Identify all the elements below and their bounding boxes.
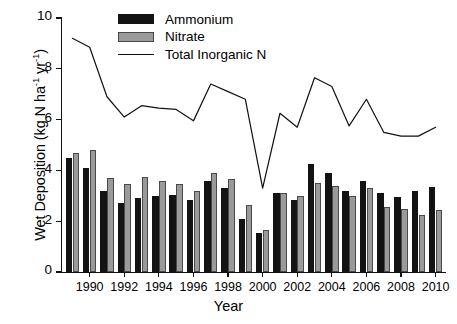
x-tick-label-1998: 1998 (214, 280, 242, 295)
chart-legend: Ammonium Nitrate Total Inorganic N (118, 11, 266, 64)
bar-nitrate-1996 (194, 191, 201, 272)
bar-ammonium-1990 (83, 168, 90, 272)
y-tick-label-6: 6 (44, 110, 52, 125)
bar-nitrate-2005 (349, 196, 356, 272)
bar-nitrate-2008 (401, 209, 408, 273)
bar-nitrate-1991 (107, 178, 114, 272)
legend-label-ammonium: Ammonium (165, 12, 233, 27)
bar-nitrate-1999 (246, 205, 253, 272)
wet-deposition-chart: Wet Deposition (kg N ha-1 yr-1) 0246810 … (0, 0, 457, 324)
bar-ammonium-1992 (118, 203, 125, 272)
bar-ammonium-1995 (169, 195, 176, 272)
x-tick-2010 (435, 272, 436, 277)
legend-item-nitrate: Nitrate (118, 29, 266, 45)
legend-swatch-ammonium (118, 14, 154, 24)
bar-nitrate-2006 (367, 188, 374, 272)
bar-ammonium-2003 (308, 164, 315, 272)
bar-ammonium-1989 (66, 158, 73, 272)
x-tick-label-2006: 2006 (353, 280, 381, 295)
legend-item-total-inorganic-n: Total Inorganic N (118, 46, 266, 62)
y-tick-label-4: 4 (44, 161, 52, 176)
y-tick-2: 2 (56, 221, 62, 222)
bar-ammonium-2004 (325, 173, 332, 272)
bar-nitrate-2000 (263, 230, 270, 272)
bar-ammonium-1996 (187, 200, 194, 272)
y-tick-label-0: 0 (44, 262, 52, 277)
x-tick-1994 (158, 272, 159, 277)
bar-ammonium-2005 (342, 191, 349, 272)
bar-nitrate-2007 (384, 207, 391, 272)
y-tick-10: 10 (56, 17, 62, 18)
y-tick-0: 0 (56, 271, 62, 272)
x-tick-1992 (124, 272, 125, 277)
bar-ammonium-2000 (256, 233, 263, 272)
y-axis-title-sup2: -1 (30, 54, 41, 62)
legend-swatch-total-inorganic-n (118, 49, 154, 59)
x-tick-2000 (262, 272, 263, 277)
x-tick-1996 (193, 272, 194, 277)
bar-ammonium-2007 (377, 193, 384, 272)
bar-ammonium-1994 (152, 196, 159, 272)
bar-nitrate-2003 (315, 183, 322, 272)
bar-nitrate-1990 (90, 150, 97, 272)
x-tick-2002 (297, 272, 298, 277)
x-axis-line (61, 272, 446, 273)
y-axis-title: Wet Deposition (kg N ha-1 yr-1) (30, 10, 48, 280)
bar-nitrate-1993 (142, 177, 149, 272)
x-tick-label-1994: 1994 (145, 280, 173, 295)
x-tick-label-2008: 2008 (387, 280, 415, 295)
y-axis-line (61, 18, 62, 272)
x-tick-1998 (227, 272, 228, 277)
bar-ammonium-2009 (412, 191, 419, 272)
bar-nitrate-2010 (436, 210, 443, 272)
bar-nitrate-2002 (297, 196, 304, 272)
y-tick-label-8: 8 (44, 59, 52, 74)
x-tick-label-2010: 2010 (422, 280, 450, 295)
y-axis-title-sup1: -1 (30, 78, 41, 86)
y-tick-label-2: 2 (44, 212, 52, 227)
y-axis-title-suffix: ) (32, 49, 48, 54)
bar-ammonium-2001 (273, 193, 280, 272)
legend-label-total-inorganic-n: Total Inorganic N (165, 47, 266, 62)
y-tick-8: 8 (56, 68, 62, 69)
bar-nitrate-1998 (228, 179, 235, 272)
bar-ammonium-2010 (429, 187, 436, 272)
x-tick-2004 (331, 272, 332, 277)
bar-nitrate-1992 (124, 184, 131, 272)
bar-nitrate-1994 (159, 181, 166, 272)
x-tick-label-2004: 2004 (318, 280, 346, 295)
x-tick-label-2000: 2000 (249, 280, 277, 295)
bar-ammonium-2006 (360, 181, 367, 272)
y-tick-6: 6 (56, 119, 62, 120)
x-tick-2006 (366, 272, 367, 277)
bar-nitrate-2001 (280, 193, 287, 272)
bar-ammonium-1999 (239, 219, 246, 272)
x-tick-label-1996: 1996 (180, 280, 208, 295)
x-tick-label-1990: 1990 (76, 280, 104, 295)
bar-nitrate-1997 (211, 173, 218, 272)
bar-ammonium-1993 (135, 198, 142, 272)
bar-ammonium-2008 (394, 197, 401, 272)
legend-swatch-nitrate (118, 32, 154, 42)
bar-ammonium-1998 (221, 188, 228, 272)
bar-ammonium-2002 (291, 200, 298, 272)
bar-nitrate-1995 (176, 184, 183, 272)
y-tick-label-10: 10 (37, 8, 52, 23)
legend-item-ammonium: Ammonium (118, 11, 266, 27)
bar-nitrate-2004 (332, 186, 339, 272)
bar-ammonium-1991 (100, 191, 107, 272)
legend-label-nitrate: Nitrate (165, 29, 205, 44)
x-tick-label-1992: 1992 (110, 280, 138, 295)
bar-nitrate-1989 (73, 153, 80, 272)
bar-nitrate-2009 (419, 215, 426, 272)
bar-ammonium-1997 (204, 181, 211, 272)
x-axis-title: Year (0, 298, 457, 314)
x-tick-label-2002: 2002 (283, 280, 311, 295)
x-tick-1990 (89, 272, 90, 277)
x-tick-2008 (400, 272, 401, 277)
y-tick-4: 4 (56, 170, 62, 171)
